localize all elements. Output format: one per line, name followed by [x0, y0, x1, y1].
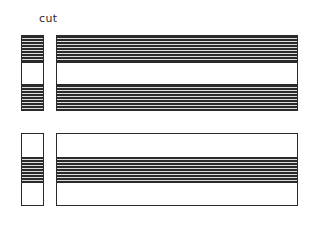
- lower-cross-section-band-plain-top: [22, 134, 43, 157]
- upper-cross-section-block: [21, 35, 44, 111]
- upper-elevation-band-hatched-top: [57, 36, 297, 62]
- upper-cross-section-band-plain-middle: [22, 62, 43, 85]
- lower-cross-section-band-plain-bottom: [22, 183, 43, 205]
- cut-label: cut: [39, 13, 58, 24]
- lower-elevation-block: [56, 133, 298, 206]
- upper-cross-section-band-hatched-top: [22, 36, 43, 62]
- figure-canvas: cut: [0, 0, 318, 229]
- upper-elevation-block: [56, 35, 298, 111]
- lower-elevation-band-plain-bottom: [57, 183, 297, 205]
- upper-elevation-band-plain-middle: [57, 62, 297, 85]
- upper-cross-section-band-hatched-bottom: [22, 85, 43, 110]
- lower-cross-section-band-hatched-middle: [22, 157, 43, 183]
- lower-elevation-band-hatched-middle: [57, 157, 297, 183]
- upper-elevation-band-hatched-bottom: [57, 85, 297, 110]
- lower-cross-section-block: [21, 133, 44, 206]
- lower-elevation-band-plain-top: [57, 134, 297, 157]
